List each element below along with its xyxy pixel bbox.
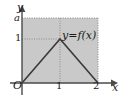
curve-equation-label: y=f(x): [62, 30, 96, 41]
x-tick-label-1: 1: [56, 81, 62, 91]
x-tick-label-2: 2: [93, 81, 99, 91]
math-figure: y x O a 1 1 2 y=f(x): [0, 0, 123, 101]
x-axis-label: x: [112, 82, 118, 93]
origin-label: O: [13, 80, 22, 91]
y-tick-label-a: a: [14, 13, 20, 23]
y-tick-label-1: 1: [15, 33, 21, 43]
